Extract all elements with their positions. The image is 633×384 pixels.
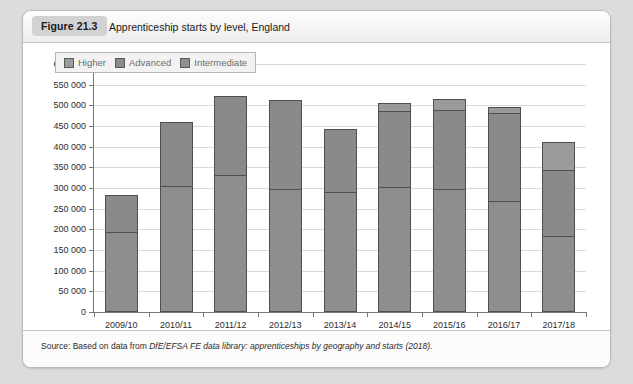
bar-2016-17[interactable]	[488, 64, 521, 312]
legend-label: Advanced	[129, 57, 171, 68]
y-axis-tick	[89, 250, 94, 251]
bar-2013-14[interactable]	[324, 64, 357, 312]
bar-2017-18[interactable]	[542, 64, 575, 312]
bar-segment-intermediate[interactable]	[324, 192, 357, 312]
source-prefix: Source: Based on data from	[41, 341, 149, 351]
legend-item-higher[interactable]: Higher	[64, 57, 106, 68]
legend-swatch-higher	[64, 58, 74, 68]
legend-swatch-advanced	[115, 58, 125, 68]
figure-header: Figure 21.3 Apprenticeship starts by lev…	[23, 11, 610, 43]
bar-segment-higher[interactable]	[542, 142, 575, 172]
legend-swatch-intermediate	[180, 58, 190, 68]
x-axis-tick	[313, 312, 314, 317]
x-axis-tick	[149, 312, 150, 317]
x-axis-label: 2011/12	[215, 320, 247, 330]
bar-segment-intermediate[interactable]	[542, 236, 575, 312]
bar-segment-intermediate[interactable]	[378, 187, 411, 312]
figure-card: Figure 21.3 Apprenticeship starts by lev…	[22, 10, 611, 368]
y-axis-label: 300 000	[53, 183, 86, 193]
bar-2010-11[interactable]	[160, 64, 193, 312]
source-suffix: .	[430, 341, 432, 351]
bar-2009-10[interactable]	[105, 64, 138, 312]
bar-segment-higher[interactable]	[488, 107, 521, 114]
y-axis-label: 100 000	[53, 266, 86, 276]
y-axis-tick	[89, 229, 94, 230]
bar-segment-intermediate[interactable]	[433, 189, 466, 312]
bar-segment-advanced[interactable]	[433, 110, 466, 190]
bar-2011-12[interactable]	[214, 64, 247, 312]
legend-label: Higher	[78, 57, 106, 68]
bar-segment-advanced[interactable]	[214, 96, 247, 176]
x-axis-tick	[422, 312, 423, 317]
y-axis-label: 450 000	[53, 121, 86, 131]
x-axis-label: 2014/15	[378, 320, 411, 330]
x-axis-tick	[477, 312, 478, 317]
y-axis-tick	[89, 188, 94, 189]
x-axis-label: 2009/10	[105, 320, 138, 330]
figure-footer: Source: Based on data from DfE/EFSA FE d…	[23, 330, 610, 367]
bar-segment-intermediate[interactable]	[488, 201, 521, 312]
y-axis-tick	[89, 147, 94, 148]
bar-2012-13[interactable]	[269, 64, 302, 312]
bar-segment-intermediate[interactable]	[160, 186, 193, 312]
legend-item-advanced[interactable]: Advanced	[115, 57, 171, 68]
x-axis-label: 2012/13	[269, 320, 302, 330]
bar-segment-advanced[interactable]	[488, 113, 521, 203]
y-axis-label: 250 000	[53, 204, 86, 214]
y-axis-tick	[89, 105, 94, 106]
y-axis-tick	[89, 126, 94, 127]
figure-number-badge: Figure 21.3	[32, 16, 107, 36]
x-axis-label: 2010/11	[160, 320, 192, 330]
bar-segment-advanced[interactable]	[160, 122, 193, 187]
x-axis-label: 2013/14	[324, 320, 357, 330]
y-axis-tick	[89, 209, 94, 210]
bar-segment-intermediate[interactable]	[214, 175, 247, 312]
bar-segment-advanced[interactable]	[269, 100, 302, 190]
x-axis-tick	[94, 312, 95, 317]
chart-area: 050 000100 000150 000200 000250 000300 0…	[23, 43, 610, 333]
x-axis-tick	[203, 312, 204, 317]
y-axis-label: 500 000	[53, 100, 86, 110]
plot-area: 050 000100 000150 000200 000250 000300 0…	[93, 64, 586, 313]
y-axis-label: 50 000	[58, 286, 86, 296]
y-axis-label: 150 000	[53, 245, 86, 255]
bar-segment-intermediate[interactable]	[105, 232, 138, 312]
x-axis-label: 2017/18	[542, 320, 575, 330]
bar-segment-advanced[interactable]	[378, 111, 411, 188]
chart-legend: HigherAdvancedIntermediate	[55, 52, 256, 73]
legend-item-intermediate[interactable]: Intermediate	[180, 57, 247, 68]
x-axis-tick	[367, 312, 368, 317]
bar-segment-higher[interactable]	[433, 99, 466, 110]
y-axis-tick	[89, 167, 94, 168]
y-axis-label: 0	[81, 307, 86, 317]
figure-title: Apprenticeship starts by level, England	[109, 17, 290, 37]
x-axis-label: 2015/16	[433, 320, 466, 330]
source-citation: DfE/EFSA FE data library: apprenticeship…	[149, 341, 430, 351]
bar-segment-advanced[interactable]	[324, 129, 357, 193]
y-axis-tick	[89, 291, 94, 292]
bar-segment-higher[interactable]	[378, 103, 411, 112]
x-axis-label: 2016/17	[488, 320, 521, 330]
y-axis-label: 400 000	[53, 142, 86, 152]
bar-2015-16[interactable]	[433, 64, 466, 312]
bar-segment-advanced[interactable]	[542, 170, 575, 237]
y-axis-label: 200 000	[53, 224, 86, 234]
y-axis-tick	[89, 271, 94, 272]
bar-segment-advanced[interactable]	[105, 195, 138, 233]
y-axis-label: 350 000	[53, 162, 86, 172]
y-axis-tick	[89, 85, 94, 86]
source-caption: Source: Based on data from DfE/EFSA FE d…	[41, 341, 432, 351]
y-axis-label: 550 000	[53, 80, 86, 90]
legend-label: Intermediate	[194, 57, 247, 68]
bar-2014-15[interactable]	[378, 64, 411, 312]
x-axis-tick	[586, 312, 587, 317]
bar-segment-intermediate[interactable]	[269, 189, 302, 312]
x-axis-tick	[258, 312, 259, 317]
x-axis-tick	[531, 312, 532, 317]
